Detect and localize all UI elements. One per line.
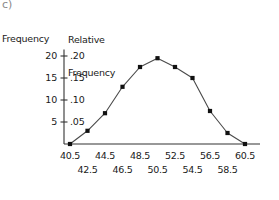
y-tick-label-relative-frequency: .15: [70, 72, 85, 83]
y-tick-label-frequency: 15: [45, 72, 57, 83]
y-tick-label-frequency: 20: [45, 50, 57, 61]
y-tick-label-relative-frequency: .20: [70, 50, 85, 61]
x-tick-label-row1: 56.5: [200, 150, 220, 161]
x-tick-labels: 40.544.548.552.556.560.542.546.550.554.5…: [60, 150, 255, 175]
x-tick-label-row1: 44.5: [95, 150, 115, 161]
data-point-marker: [173, 65, 177, 69]
y-tick-labels: 5.0510.1015.1520.20: [45, 50, 84, 127]
data-point-marker: [243, 142, 247, 146]
data-point-marker: [208, 109, 212, 113]
series-line: [70, 58, 245, 144]
x-tick-label-row1: 52.5: [165, 150, 185, 161]
data-point-marker: [155, 56, 159, 60]
data-point-marker: [103, 111, 107, 115]
x-tick-label-row1: 60.5: [235, 150, 255, 161]
x-tick-label-row1: 40.5: [60, 150, 80, 161]
x-tick-label-row2: 42.5: [78, 164, 98, 175]
x-tick-label-row1: 48.5: [130, 150, 150, 161]
data-point-marker: [225, 131, 229, 135]
x-tick-label-row2: 50.5: [148, 164, 168, 175]
x-tick-label-row2: 46.5: [113, 164, 133, 175]
data-series-polygon: [68, 56, 247, 146]
data-point-marker: [85, 129, 89, 133]
data-point-marker: [68, 142, 72, 146]
y-axis: [61, 49, 68, 144]
y-tick-label-frequency: 5: [51, 116, 57, 127]
data-point-marker: [120, 85, 124, 89]
data-point-marker: [190, 76, 194, 80]
data-point-marker: [138, 65, 142, 69]
y-tick-label-relative-frequency: .05: [70, 116, 85, 127]
frequency-polygon-figure: c) Frequency Relative Frequency 5.0510.1…: [0, 0, 279, 200]
y-tick-label-frequency: 10: [45, 94, 57, 105]
x-tick-label-row2: 54.5: [183, 164, 203, 175]
chart-plot-area: 5.0510.1015.1520.20 40.544.548.552.556.5…: [0, 0, 279, 200]
y-tick-label-relative-frequency: .10: [70, 94, 85, 105]
x-tick-label-row2: 58.5: [218, 164, 238, 175]
